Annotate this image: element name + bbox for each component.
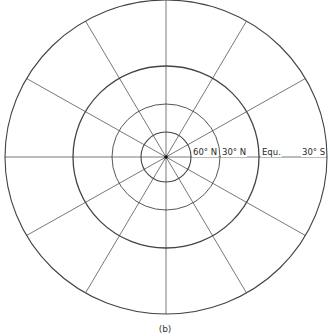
meridian-line <box>166 79 305 158</box>
meridian-line <box>86 157 167 293</box>
meridian-line <box>27 157 166 236</box>
label-equator: Equ. <box>261 147 282 157</box>
meridian-line <box>27 79 166 158</box>
meridian-line <box>166 157 305 236</box>
meridian-line <box>166 157 247 293</box>
north-pole-dot <box>164 155 168 159</box>
polar-graticule-diagram <box>0 0 330 336</box>
meridian-line <box>86 21 167 157</box>
figure-caption: (b) <box>0 324 330 334</box>
label-30n: 30° N <box>221 147 247 157</box>
label-60n: 60° N <box>192 147 218 157</box>
meridian-line <box>166 21 247 157</box>
label-30s: 30° S <box>301 147 326 157</box>
